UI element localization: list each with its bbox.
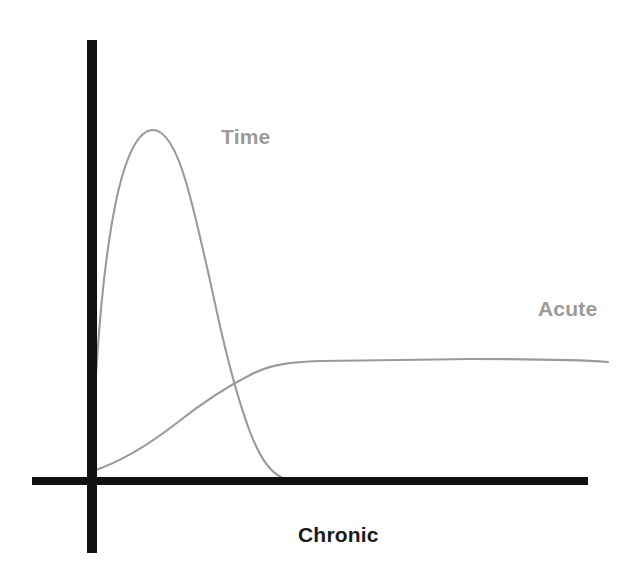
time-curve — [91, 130, 281, 477]
time-curve-label: Time — [221, 125, 270, 149]
acute-curve — [93, 359, 608, 471]
acute-curve-label: Acute — [538, 297, 597, 321]
vertical-axis — [87, 40, 97, 553]
chronic-axis-label: Chronic — [298, 523, 379, 547]
plot-area — [0, 0, 631, 587]
chart-figure: Time Acute Chronic — [0, 0, 631, 587]
horizontal-axis — [32, 477, 588, 485]
